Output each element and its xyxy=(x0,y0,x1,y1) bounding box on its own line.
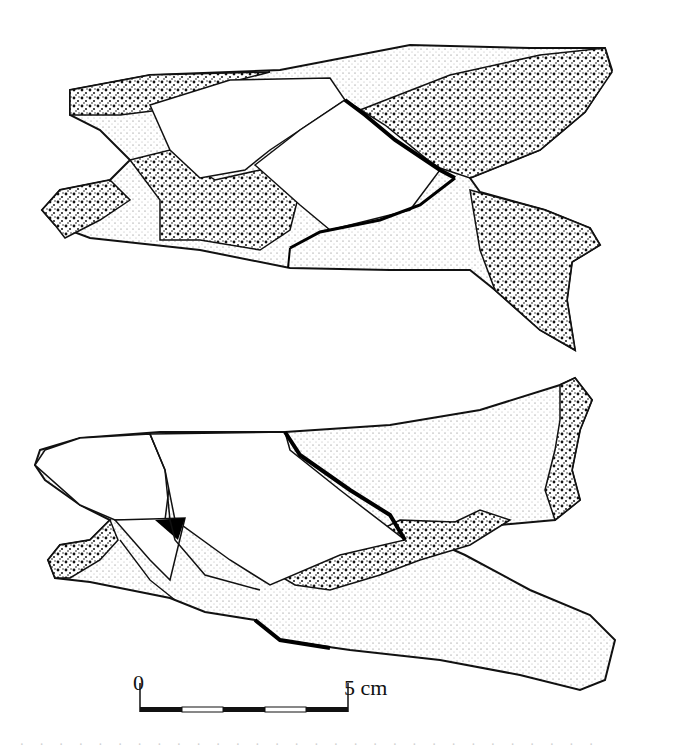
figure-caption-cropped: · · · · · · · · · · · · · · · · · · · · … xyxy=(20,738,660,750)
lower-view xyxy=(35,378,615,690)
scale-bar xyxy=(140,683,348,712)
upper-view xyxy=(42,45,612,350)
scale-end-label: 5 cm xyxy=(344,675,387,701)
scale-start-label: 0 xyxy=(133,670,144,696)
figure-illustration xyxy=(0,0,674,750)
